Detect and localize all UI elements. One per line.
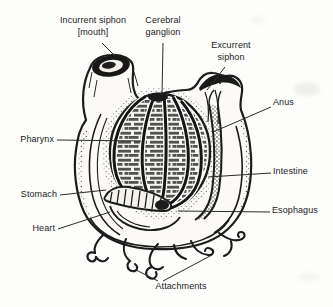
label-stomach: Stomach xyxy=(0,189,57,201)
esophagus-shape xyxy=(155,200,169,210)
leader-attachments-right xyxy=(163,255,212,281)
label-pharynx: Pharynx xyxy=(0,134,54,146)
label-anus: Anus xyxy=(273,97,294,109)
cerebral-ganglion-shape xyxy=(148,93,168,102)
label-heart: Heart xyxy=(0,223,55,235)
label-cerebral-ganglion: Cerebral ganglion xyxy=(130,15,196,38)
anatomy-figure: Incurrent siphon [mouth] Cerebral gangli… xyxy=(0,0,333,307)
scan-smudge xyxy=(298,272,320,282)
label-intestine: Intestine xyxy=(273,166,308,178)
label-excurrent-siphon: Excurrent siphon xyxy=(198,40,264,63)
scan-smudge xyxy=(294,82,320,96)
label-attachments: Attachments xyxy=(140,281,222,293)
label-esophagus: Esophagus xyxy=(272,205,318,217)
tunicate-illustration xyxy=(0,0,333,307)
scan-smudge xyxy=(250,16,266,24)
